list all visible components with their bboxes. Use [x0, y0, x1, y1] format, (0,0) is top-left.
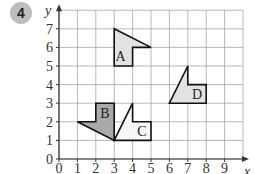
- x-tick-label: 1: [74, 161, 81, 174]
- x-tick-label: 3: [111, 161, 118, 174]
- y-tick-label: 7: [46, 22, 53, 37]
- y-tick-label: 0: [46, 152, 53, 167]
- y-tick-label: 4: [46, 78, 53, 93]
- x-tick-label: 5: [148, 161, 155, 174]
- shape-label: D: [192, 87, 202, 102]
- y-tick-label: 6: [46, 40, 53, 55]
- y-tick-label: 3: [46, 96, 53, 111]
- x-tick-label: 9: [221, 161, 228, 174]
- y-axis-label: y: [43, 3, 52, 18]
- x-tick-label: 8: [203, 161, 210, 174]
- coordinate-grid: ABCD xy 012345678901234567: [0, 0, 255, 174]
- x-tick-label: 2: [92, 161, 99, 174]
- x-tick-label: 6: [166, 161, 173, 174]
- x-axis-label: x: [243, 164, 251, 174]
- x-axis-arrow-icon: [242, 156, 249, 162]
- y-tick-label: 5: [46, 59, 53, 74]
- x-tick-label: 0: [56, 161, 63, 174]
- shape-label: A: [116, 49, 127, 64]
- y-tick-label: 2: [46, 115, 53, 130]
- y-axis-arrow-icon: [56, 4, 62, 11]
- x-tick-label: 7: [184, 161, 191, 174]
- y-tick-label: 1: [46, 133, 53, 148]
- x-tick-label: 4: [129, 161, 136, 174]
- shape-label: C: [137, 124, 146, 139]
- shape-label: B: [100, 106, 109, 121]
